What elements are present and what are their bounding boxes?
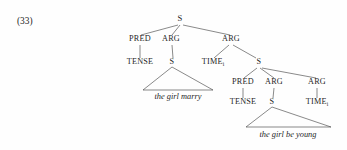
terminal-the-girl-marry: the girl marry	[155, 92, 202, 101]
subscript-index: i	[327, 101, 329, 107]
node-pred-left: PRED	[129, 34, 151, 43]
figure-container: the girl marrythe girl be youngSPREDARGA…	[0, 0, 347, 150]
terminal-the-girl-be-young-triangle	[246, 107, 331, 127]
node-tense-left: TENSE	[127, 57, 154, 66]
node-tense-embedded: TENSE	[230, 97, 257, 106]
node-arg-embedded2: ARG	[308, 77, 326, 86]
node-s-embedded: S	[270, 97, 275, 106]
node-pred-embedded: PRED	[232, 77, 254, 86]
node-arg-embedded1: ARG	[265, 77, 283, 86]
node-time-mid: TIMEi	[202, 57, 225, 67]
terminal-the-girl-marry-triangle	[143, 67, 213, 90]
example-number: (33)	[17, 16, 33, 27]
node-s-right: S	[257, 57, 262, 66]
syntax-tree-diagram: the girl marrythe girl be youngSPREDARGA…	[0, 0, 347, 150]
edge-arg-right-s	[233, 45, 256, 58]
subscript-index: i	[223, 61, 225, 67]
terminal-the-girl-be-young: the girl be young	[260, 130, 317, 139]
tree-node-labels: the girl marrythe girl be youngSPREDARGA…	[127, 13, 329, 139]
node-arg-right: ARG	[222, 34, 240, 43]
node-arg-left: ARG	[162, 34, 180, 43]
node-root-s: S	[177, 13, 182, 23]
node-time-embedded: TIMEi	[306, 97, 329, 107]
node-s-left: S	[170, 57, 175, 66]
